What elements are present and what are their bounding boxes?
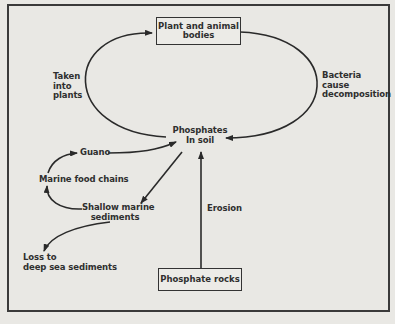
label-bacteria-decomposition: Bacteria cause decomposition bbox=[322, 71, 391, 100]
node-phosphates-in-soil: Phosphates In soil bbox=[172, 126, 228, 145]
node-guano: Guano bbox=[80, 148, 110, 158]
node-plant-animal-bodies: Plant and animal bodies bbox=[156, 17, 241, 45]
arrow-shallow-to-food bbox=[47, 186, 82, 209]
node-phosphate-rocks: Phosphate rocks bbox=[158, 268, 242, 291]
label-taken-line3: plants bbox=[53, 91, 82, 101]
node-loss-line2: deep sea sediments bbox=[23, 263, 117, 273]
arrow-taken-into-plants bbox=[85, 33, 166, 137]
label-taken-into-plants: Taken into plants bbox=[53, 72, 82, 101]
node-shallow-line2: sediments bbox=[82, 213, 148, 223]
label-erosion: Erosion bbox=[207, 204, 242, 214]
node-marine-food-chains: Marine food chains bbox=[39, 175, 129, 185]
arrow-decomposition bbox=[226, 32, 317, 138]
arrow-to-deep-sea bbox=[44, 222, 110, 251]
arrow-food-to-guano bbox=[48, 153, 77, 173]
arrow-guano-to-soil bbox=[108, 142, 176, 153]
label-bacteria-line3: decomposition bbox=[322, 90, 391, 100]
node-plant-animal-line2: bodies bbox=[158, 31, 239, 41]
node-phosphate-rocks-label: Phosphate rocks bbox=[160, 275, 240, 285]
node-shallow-marine-sediments: Shallow marine sediments bbox=[82, 203, 148, 222]
node-phosphates-line2: In soil bbox=[172, 136, 228, 146]
node-loss-deep-sea: Loss to deep sea sediments bbox=[23, 253, 117, 272]
arrow-to-shallow bbox=[141, 152, 182, 203]
